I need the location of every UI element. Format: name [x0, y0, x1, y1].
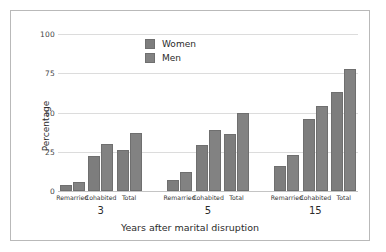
bar-women-3-total: [117, 150, 129, 191]
bar-men-3-remarried: [73, 182, 85, 191]
y-tick-label-0: 0: [50, 187, 55, 196]
group-label-15: 15: [309, 205, 322, 216]
bar-men-5-cohabited: [209, 130, 221, 191]
bar-men-3-cohabited: [101, 144, 113, 191]
y-tick-label-100: 100: [40, 30, 55, 39]
x-tick-label-5-total: Total: [229, 194, 243, 201]
bar-women-5-cohabited: [196, 145, 208, 191]
x-tick-label-15-total: Total: [337, 194, 351, 201]
x-tick-label-3-cohabited: Cohabited: [85, 194, 117, 201]
bar-women-15-remarried: [274, 166, 286, 191]
bar-men-5-total: [237, 113, 249, 192]
x-tick-label-5-cohabited: Cohabited: [192, 194, 224, 201]
bar-men-15-cohabited: [316, 106, 328, 191]
x-tick-label-5-remarried: Remarried: [164, 194, 196, 201]
bar-women-3-remarried: [60, 185, 72, 191]
bar-women-5-remarried: [167, 180, 179, 191]
x-tick-label-15-cohabited: Cohabited: [300, 194, 332, 201]
bar-women-3-cohabited: [88, 156, 100, 191]
gridline-50: [58, 113, 358, 114]
bar-men-15-total: [344, 69, 356, 191]
plot-area: 0255075100RemarriedCohabitedTotal3Remarr…: [58, 34, 358, 191]
chart-figure: Percentage Women Men 0255075100Remarried…: [10, 10, 370, 241]
bar-men-15-remarried: [287, 155, 299, 191]
y-tick-label-50: 50: [45, 108, 55, 117]
x-axis-title: Years after marital disruption: [11, 222, 369, 233]
bar-women-15-total: [331, 92, 343, 191]
y-tick-label-75: 75: [45, 69, 55, 78]
x-tick-label-3-total: Total: [122, 194, 136, 201]
gridline-100: [58, 34, 358, 35]
y-tick-label-25: 25: [45, 147, 55, 156]
group-label-5: 5: [205, 205, 211, 216]
gridline-75: [58, 73, 358, 74]
gridline-0: [58, 191, 358, 192]
bar-men-3-total: [130, 133, 142, 191]
x-tick-label-15-remarried: Remarried: [271, 194, 303, 201]
bar-women-15-cohabited: [303, 119, 315, 191]
bar-women-5-total: [224, 134, 236, 191]
group-label-3: 3: [97, 205, 103, 216]
bar-men-5-remarried: [180, 172, 192, 191]
x-tick-label-3-remarried: Remarried: [56, 194, 88, 201]
